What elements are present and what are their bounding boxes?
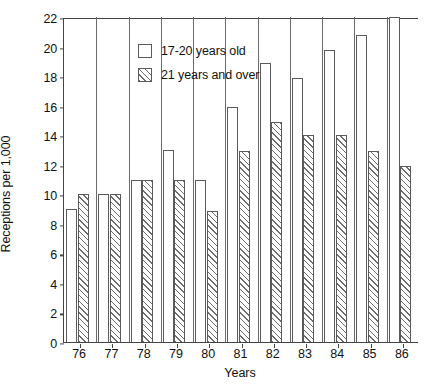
bar	[303, 135, 314, 342]
y-axis-tick-mark	[60, 343, 64, 344]
plot-area: 0246810121416182022 17-20 years old 21 y…	[63, 18, 418, 343]
bar	[389, 17, 400, 342]
y-axis-tick-mark	[60, 18, 64, 19]
y-axis-tick-mark	[60, 225, 64, 226]
y-axis-tick-label: 16	[23, 101, 64, 115]
bar	[260, 63, 271, 342]
x-axis-group-separator	[354, 17, 355, 342]
x-axis-tick-label: 81	[234, 347, 248, 361]
bar	[400, 166, 411, 342]
legend-item-label: 21 years and over	[161, 68, 259, 82]
bar	[110, 194, 121, 342]
y-axis-tick-label: 4	[23, 278, 64, 292]
y-axis-tick-label: 12	[23, 160, 64, 174]
y-axis-tick-label: 2	[23, 307, 64, 321]
x-axis-tick-label: 84	[330, 347, 344, 361]
x-axis-group-separator	[322, 17, 323, 342]
bar	[195, 180, 206, 343]
x-axis-group-separator	[387, 17, 388, 342]
bar	[163, 150, 174, 342]
y-axis-tick-label: 0	[23, 337, 64, 351]
bar	[356, 35, 367, 342]
bar	[292, 78, 303, 342]
x-axis-tick-label: 79	[169, 347, 183, 361]
y-axis-tick-label: 20	[23, 42, 64, 56]
y-axis-tick-mark	[60, 255, 64, 256]
bar	[66, 209, 77, 342]
y-axis-tick-label: 6	[23, 248, 64, 262]
x-axis-group-separator	[290, 17, 291, 342]
y-axis-tick-mark	[60, 48, 64, 49]
x-axis-tick-label: 83	[298, 347, 312, 361]
bar	[239, 151, 250, 342]
x-axis-label: Years	[224, 366, 256, 380]
x-axis-tick-label: 76	[72, 347, 86, 361]
y-axis-tick-label: 10	[23, 189, 64, 203]
chart-legend: 17-20 years old 21 years and over	[138, 43, 259, 91]
legend-item: 21 years and over	[138, 67, 259, 82]
x-axis-tick-label: 86	[395, 347, 409, 361]
bar	[207, 211, 218, 342]
hatched-square-icon	[138, 68, 152, 82]
bar-chart-figure: Receptions per 1,000 0246810121416182022…	[0, 0, 426, 391]
legend-item-label: 17-20 years old	[161, 44, 246, 58]
y-axis-tick-label: 22	[23, 12, 64, 26]
y-axis-tick-mark	[60, 314, 64, 315]
bar	[324, 50, 335, 343]
y-axis-tick-mark	[60, 196, 64, 197]
y-axis-tick-mark	[60, 284, 64, 285]
x-axis-tick-label: 85	[363, 347, 377, 361]
y-axis-label: Receptions per 1,000	[0, 136, 13, 253]
x-axis-group-separator	[96, 17, 97, 342]
y-axis-tick-label: 8	[23, 219, 64, 233]
bar	[78, 194, 89, 342]
x-axis-tick-label: 78	[137, 347, 151, 361]
bar	[271, 122, 282, 342]
bar	[174, 180, 185, 343]
y-axis-tick-mark	[60, 77, 64, 78]
bar	[98, 194, 109, 342]
y-axis-tick-mark	[60, 107, 64, 108]
open-square-icon	[138, 44, 152, 58]
bar	[227, 107, 238, 342]
y-axis-tick-label: 14	[23, 130, 64, 144]
bar	[336, 135, 347, 342]
bar	[368, 151, 379, 342]
y-axis-tick-mark	[60, 166, 64, 167]
x-axis-tick-label: 77	[104, 347, 118, 361]
x-axis-tick-label: 82	[266, 347, 280, 361]
bar	[131, 180, 142, 343]
y-axis-tick-mark	[60, 137, 64, 138]
legend-item: 17-20 years old	[138, 43, 259, 58]
y-axis-tick-label: 18	[23, 71, 64, 85]
x-axis-tick-label: 80	[201, 347, 215, 361]
x-axis-group-separator	[129, 17, 130, 342]
bar	[142, 180, 153, 343]
